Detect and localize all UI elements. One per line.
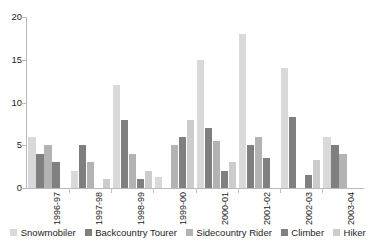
bar-group [238,17,280,188]
bar [71,171,78,188]
bar [205,128,212,188]
legend-item: Hiker [333,228,366,238]
bar [129,154,136,188]
bar [339,154,346,188]
x-tick-label: 1999-00 [179,192,188,225]
bar [155,177,162,188]
x-axis-tick-labels: 1996-971997-981998-991999-002000-012001-… [27,192,364,226]
bar [221,171,228,188]
bar-group [280,17,322,188]
bar [121,120,128,188]
legend-item: Climber [281,228,324,238]
bar-group [111,17,153,188]
bar [247,145,254,188]
bar [103,179,110,188]
bars-area [27,17,364,188]
legend-swatch-icon [186,229,193,236]
bar-group [69,17,111,188]
bar [113,85,120,188]
bar-chart: 05101520 1996-971997-981998-991999-00200… [0,0,376,247]
bar [239,34,246,188]
x-tick-label: 1996-97 [53,192,62,225]
bar-group [27,17,69,188]
y-tick-mark [21,60,26,61]
bar [197,60,204,188]
bar [323,137,330,188]
bar [313,160,320,188]
x-tick-label: 2003-04 [347,192,356,225]
x-tick-label: 1998-99 [137,192,146,225]
legend-swatch-icon [281,229,288,236]
bar [179,137,186,188]
bar [305,175,312,188]
x-tick-label: 2001-02 [263,192,272,225]
legend-label: Backcountry Tourer [95,228,177,238]
legend-swatch-icon [85,229,92,236]
legend-swatch-icon [333,229,340,236]
bar [145,171,152,188]
x-tick-label: 2002-03 [305,192,314,225]
y-tick-mark [21,17,26,18]
bar [263,158,270,188]
bar [79,145,86,188]
bar [137,179,144,188]
bar [229,162,236,188]
legend-label: Snowmobiler [21,228,76,238]
legend-item: Sidecountry Rider [186,228,272,238]
bar [187,120,194,188]
legend-label: Sidecountry Rider [196,228,272,238]
y-tick-mark [21,145,26,146]
bar-group [322,17,364,188]
bar [213,141,220,188]
bar [87,162,94,188]
bar [171,145,178,188]
legend-item: Snowmobiler [10,228,75,238]
bar [36,154,43,188]
y-tick-mark [21,188,26,189]
bar [331,145,338,188]
bar [44,145,51,188]
legend-item: Backcountry Tourer [85,228,177,238]
chart-legend: SnowmobilerBackcountry TourerSidecountry… [0,228,376,238]
legend-label: Climber [291,228,324,238]
y-axis: 05101520 [0,12,22,190]
legend-label: Hiker [344,228,366,238]
x-tick-label: 1997-98 [95,192,104,225]
bar-group [153,17,195,188]
bar [28,137,35,188]
plot-area: 05101520 [0,12,376,190]
bar [281,68,288,188]
y-tick-mark [21,103,26,104]
bar [52,162,59,188]
bar-group [196,17,238,188]
bar [255,137,262,188]
bar [289,117,296,188]
legend-swatch-icon [10,229,17,236]
x-tick-label: 2000-01 [221,192,230,225]
